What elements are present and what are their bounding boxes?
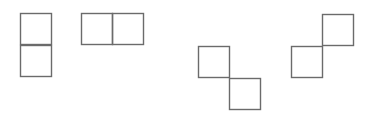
diagonal-up-right-pair-square-2 [323, 15, 354, 46]
vertical-domino-square-2 [21, 46, 52, 77]
horizontal-domino-square-1 [82, 14, 113, 45]
vertical-domino-square-1 [21, 14, 52, 45]
diagonal-down-right-pair [199, 47, 261, 110]
diagonal-down-right-pair-square-2 [230, 79, 261, 110]
vertical-domino [21, 14, 52, 77]
diagonal-down-right-pair-square-1 [199, 47, 230, 78]
diagonal-up-right-pair [292, 15, 354, 78]
horizontal-domino [82, 14, 144, 45]
shapes-diagram [0, 0, 374, 115]
diagonal-up-right-pair-square-1 [292, 47, 323, 78]
horizontal-domino-square-2 [113, 14, 144, 45]
